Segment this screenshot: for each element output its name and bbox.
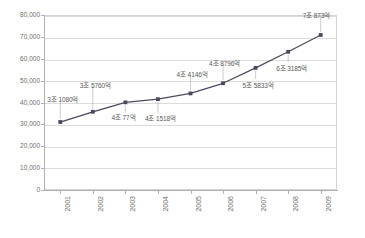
data-point-label: 6조 3185억 <box>276 65 307 73</box>
data-point-label: 7조 873억 <box>303 12 331 20</box>
series-graphics <box>0 0 365 238</box>
data-point-marker <box>58 120 62 124</box>
data-point-label: 3조 1080억 <box>47 96 78 104</box>
data-point-marker <box>319 33 323 37</box>
line-chart: 80,00070,00060,00050,00040,00030,00020,0… <box>0 0 365 238</box>
data-point-label: 4조 8796억 <box>209 60 240 68</box>
data-point-marker <box>286 50 290 54</box>
data-point-label: 3조 5760억 <box>80 82 111 90</box>
data-point-marker <box>156 97 160 101</box>
data-point-marker <box>254 66 258 70</box>
data-point-label: 5조 5833억 <box>243 82 274 90</box>
data-point-label: 4조 77억 <box>111 114 135 122</box>
data-point-marker <box>221 81 225 85</box>
data-point-label: 4조 1518억 <box>145 115 176 123</box>
data-point-marker <box>91 110 95 114</box>
data-point-marker <box>189 92 193 96</box>
data-point-marker <box>123 100 127 104</box>
data-point-label: 4조 4146억 <box>177 71 208 79</box>
